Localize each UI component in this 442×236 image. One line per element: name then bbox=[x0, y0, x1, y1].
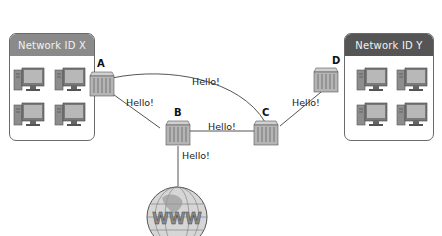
router-d-icon bbox=[314, 68, 338, 92]
globe-www-icon: WWW bbox=[144, 184, 210, 236]
link-a-b-label: Hello! bbox=[126, 97, 154, 108]
router-b-icon bbox=[166, 121, 190, 145]
svg-text:WWW: WWW bbox=[152, 210, 202, 228]
router-c-label: C bbox=[262, 107, 269, 118]
router-c-icon bbox=[254, 121, 278, 145]
routers-layer bbox=[0, 0, 442, 236]
router-d-label: D bbox=[332, 55, 340, 66]
router-b-label: B bbox=[174, 107, 182, 118]
link-a-c-label: Hello! bbox=[192, 76, 220, 87]
link-c-d-label: Hello! bbox=[292, 97, 320, 108]
link-b-c-label: Hello! bbox=[208, 121, 236, 132]
router-a-icon bbox=[90, 72, 114, 96]
link-b-www-label: Hello! bbox=[182, 150, 210, 161]
router-a-label: A bbox=[97, 58, 105, 69]
